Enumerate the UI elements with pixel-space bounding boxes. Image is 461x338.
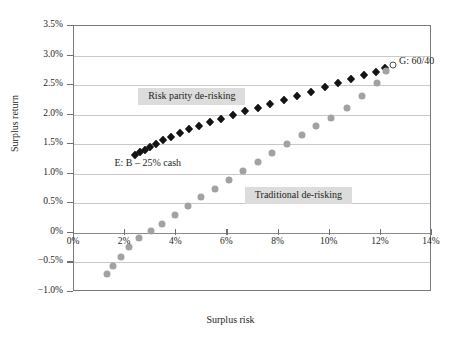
y-tick-label: 0%: [17, 226, 63, 236]
data-point: [185, 203, 192, 210]
point-g-label: G: 60/40: [399, 55, 434, 66]
data-point: [104, 271, 111, 278]
data-point: [159, 221, 166, 228]
y-tick-label: 2.5%: [17, 78, 63, 88]
data-point: [279, 96, 287, 104]
x-tick-mark: [73, 229, 74, 235]
y-tick-label: 3.0%: [17, 49, 63, 59]
data-point: [147, 228, 154, 235]
y-tick-mark: [67, 143, 73, 144]
y-tick-mark: [67, 261, 73, 262]
y-tick-label: 1.5%: [17, 137, 63, 147]
data-point: [212, 185, 219, 192]
y-axis-title: Surplus return: [9, 79, 20, 169]
data-point: [320, 83, 328, 91]
data-point: [109, 262, 116, 269]
x-tick-mark: [329, 229, 330, 235]
data-point: [206, 118, 214, 126]
gridline-y: [74, 233, 430, 234]
x-tick-label: 8%: [258, 236, 298, 246]
data-point: [229, 111, 237, 119]
x-tick-label: 12%: [360, 236, 400, 246]
data-point: [254, 158, 261, 165]
x-tick-label: 0%: [53, 236, 93, 246]
x-tick-mark: [278, 229, 279, 235]
data-point: [167, 132, 175, 140]
data-point: [298, 132, 305, 139]
data-point: [283, 141, 290, 148]
gridline-y: [74, 115, 430, 116]
data-point: [334, 79, 342, 87]
x-tick-mark: [124, 229, 125, 235]
risk-parity-callout: Risk parity de-risking: [138, 88, 245, 105]
data-point: [253, 103, 261, 111]
y-tick-label: 3.5%: [17, 19, 63, 29]
data-point: [347, 75, 355, 83]
data-point: [358, 92, 365, 99]
y-tick-label: 0.5%: [17, 196, 63, 206]
gridline-y: [74, 144, 430, 145]
data-point: [195, 122, 203, 130]
y-tick-mark: [67, 25, 73, 26]
y-tick-mark: [67, 173, 73, 174]
y-tick-mark: [67, 291, 73, 292]
x-tick-mark: [431, 229, 432, 235]
gridline-y: [74, 262, 430, 263]
data-point: [371, 67, 379, 75]
data-point: [343, 104, 350, 111]
y-tick-label: −0.5%: [17, 255, 63, 265]
data-point: [185, 125, 193, 133]
data-point: [266, 100, 274, 108]
y-tick-mark: [67, 202, 73, 203]
x-tick-label: 6%: [206, 236, 246, 246]
data-point: [383, 67, 390, 74]
x-tick-mark: [175, 229, 176, 235]
y-tick-label: 1.0%: [17, 167, 63, 177]
x-axis-title: Surplus risk: [0, 314, 461, 325]
data-point: [293, 92, 301, 100]
x-tick-label: 14%: [411, 236, 451, 246]
x-tick-label: 2%: [104, 236, 144, 246]
x-tick-label: 10%: [309, 236, 349, 246]
data-point: [360, 71, 368, 79]
data-point: [313, 123, 320, 130]
point-e-label: E: B – 25% cash: [114, 157, 181, 168]
gridline-y: [74, 174, 430, 175]
x-tick-mark: [226, 229, 227, 235]
data-point: [217, 115, 225, 123]
y-tick-mark: [67, 84, 73, 85]
gridline-y: [74, 56, 430, 57]
data-point: [390, 62, 397, 69]
data-point: [225, 176, 232, 183]
x-tick-label: 4%: [155, 236, 195, 246]
data-point: [268, 150, 275, 157]
chart-figure: Surplus return 3.5%3.0%2.5%2.0%1.5%1.0%0…: [0, 0, 461, 338]
data-point: [373, 79, 380, 86]
data-point: [117, 253, 124, 260]
x-tick-mark: [380, 229, 381, 235]
y-tick-label: −1.0%: [17, 285, 63, 295]
traditional-callout: Traditional de-risking: [245, 187, 352, 204]
y-tick-mark: [67, 55, 73, 56]
data-point: [240, 167, 247, 174]
data-point: [198, 194, 205, 201]
data-point: [176, 129, 184, 137]
data-point: [307, 87, 315, 95]
y-tick-label: 2.0%: [17, 108, 63, 118]
data-point: [172, 212, 179, 219]
y-tick-mark: [67, 114, 73, 115]
data-point: [328, 114, 335, 121]
